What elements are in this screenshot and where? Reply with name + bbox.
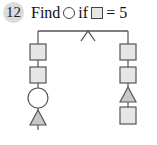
balance-mobile-diagram bbox=[0, 0, 157, 145]
square-shape bbox=[120, 107, 136, 124]
square-shape bbox=[30, 44, 46, 60]
triangle-shape bbox=[120, 87, 136, 102]
circle-shape bbox=[28, 88, 48, 108]
square-shape bbox=[120, 67, 136, 83]
right-hanging-column bbox=[120, 31, 136, 124]
left-hanging-column bbox=[28, 31, 48, 130]
square-shape bbox=[120, 44, 136, 60]
triangle-shape bbox=[30, 110, 46, 125]
square-shape bbox=[30, 67, 46, 83]
fulcrum-icon bbox=[81, 31, 95, 41]
